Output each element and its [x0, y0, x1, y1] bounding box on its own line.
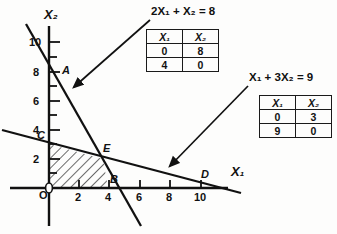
constraint2-table: X₁ X₂ 0 3 9 0 — [259, 95, 332, 138]
table-header-row: X₁ X₂ — [147, 30, 219, 44]
table1-r0-c1: 8 — [183, 44, 219, 58]
table1-header-x1: X₁ — [147, 30, 183, 44]
table2-header-x1: X₁ — [260, 96, 296, 110]
x-tick-6: 6 — [136, 192, 142, 203]
table-header-row: X₁ X₂ — [260, 96, 332, 110]
constraint2-leader-arrow — [170, 86, 248, 166]
point-label-d: D — [201, 169, 209, 180]
y-tick-10: 10 — [29, 37, 41, 48]
x-tick-2: 2 — [75, 192, 81, 203]
constraint2-equation-text: X₁ + 3X₂ = 9 — [249, 71, 313, 83]
x-tick-10: 10 — [194, 192, 206, 203]
table2-r0-c0: 0 — [260, 110, 296, 124]
origin-label: O — [39, 190, 48, 201]
x-tick-8: 8 — [166, 192, 172, 203]
y-tick-8: 8 — [33, 67, 39, 78]
y-tick-2: 2 — [33, 154, 39, 165]
point-label-c: C — [37, 130, 45, 141]
constraint1-leader-arrow — [74, 20, 150, 87]
table1-r0-c0: 0 — [147, 44, 183, 58]
x-axis-label: X₁ — [231, 165, 244, 178]
table-row: 4 0 — [147, 58, 219, 72]
table-row: 0 3 — [260, 110, 332, 124]
y-tick-6: 6 — [33, 96, 39, 107]
table1-r1-c1: 0 — [183, 58, 219, 72]
table1-r1-c0: 4 — [147, 58, 183, 72]
constraint1-table: X₁ X₂ 0 8 4 0 — [146, 29, 219, 72]
table2-r1-c1: 0 — [296, 124, 332, 138]
point-label-e: E — [103, 143, 110, 154]
table2-r0-c1: 3 — [296, 110, 332, 124]
constraint1-equation: 2X₁ + X₂ = 8 — [151, 6, 215, 18]
x-tick-4: 4 — [105, 192, 111, 203]
table1-header-x2: X₂ — [183, 30, 219, 44]
point-label-b: B — [110, 174, 118, 185]
point-label-a: A — [62, 65, 70, 76]
y-axis-label: X₂ — [44, 8, 58, 21]
constraint1-equation-text: 2X₁ + X₂ = 8 — [151, 5, 215, 17]
figure-canvas: X₂ X₁ O 2 4 6 8 10 2 4 6 8 10 A B C D E … — [0, 0, 337, 234]
table-row: 9 0 — [260, 124, 332, 138]
table2-header-x2: X₂ — [296, 96, 332, 110]
table-row: 0 8 — [147, 44, 219, 58]
constraint2-equation: X₁ + 3X₂ = 9 — [249, 72, 313, 84]
table2-r1-c0: 9 — [260, 124, 296, 138]
